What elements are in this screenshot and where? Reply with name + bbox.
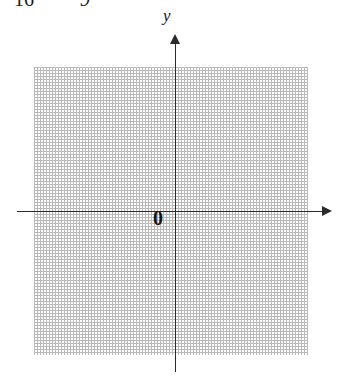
figure-canvas: 16 9	[0, 0, 337, 376]
y-axis	[175, 43, 176, 372]
x-axis	[17, 211, 324, 212]
origin-label: 0	[153, 207, 163, 230]
arrow-right-icon	[322, 206, 332, 216]
coordinate-plot: y 0	[0, 0, 337, 376]
y-axis-label: y	[163, 6, 171, 26]
arrow-up-icon	[170, 34, 180, 44]
